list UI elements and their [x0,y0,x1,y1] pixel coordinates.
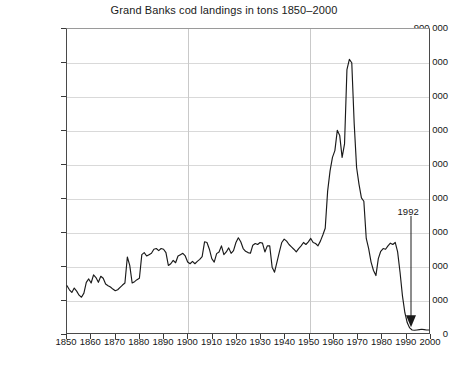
plot-area [66,28,430,334]
annotation-arrow-icon [396,216,426,327]
chart-title: Grand Banks cod landings in tons 1850–20… [0,4,448,16]
data-series-line [67,29,429,333]
x-axis-tick-label: 2000 [410,337,450,347]
